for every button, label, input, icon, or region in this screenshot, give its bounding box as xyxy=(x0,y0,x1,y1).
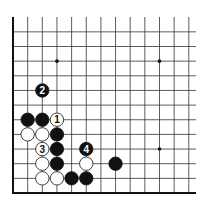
star-point xyxy=(55,59,59,63)
black-stone: 2 xyxy=(36,84,49,97)
black-stone xyxy=(50,157,63,170)
move-number: 4 xyxy=(83,144,89,155)
black-stone xyxy=(50,128,63,141)
black-stone xyxy=(21,113,34,126)
black-stone xyxy=(50,142,63,155)
white-stone xyxy=(80,157,93,170)
white-stone xyxy=(36,128,49,141)
star-point xyxy=(158,59,162,63)
white-stone: 1 xyxy=(50,113,63,126)
white-stone xyxy=(36,157,49,170)
white-stone: 3 xyxy=(36,142,49,155)
move-number: 2 xyxy=(40,85,46,96)
black-stone xyxy=(36,113,49,126)
white-stone xyxy=(50,172,63,185)
star-point xyxy=(158,147,162,151)
black-stone xyxy=(109,157,122,170)
black-stone: 4 xyxy=(80,142,93,155)
move-number: 1 xyxy=(54,114,60,125)
black-stone xyxy=(80,172,93,185)
go-board: 1342 xyxy=(0,0,208,210)
black-stone xyxy=(65,172,78,185)
white-stone xyxy=(21,128,34,141)
white-stone xyxy=(36,172,49,185)
move-number: 3 xyxy=(40,144,46,155)
